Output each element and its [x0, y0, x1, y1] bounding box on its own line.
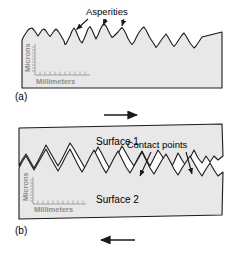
asperities-arrow-1 [77, 19, 89, 30]
panel-a-label: (a) [15, 91, 27, 102]
panel-a-x-axis-label: Millimeters [36, 77, 75, 86]
surface-asperities-figure: Microns Millimeters Asperities (a) [0, 0, 240, 255]
figure-root: Microns Millimeters Asperities (a) [0, 0, 240, 255]
asperities-label: Asperities [86, 6, 128, 17]
contact-points-label: Contact points [127, 139, 188, 150]
panel-b-y-axis-label: Microns [21, 172, 30, 201]
panel-b-label: (b) [15, 225, 27, 236]
panel-b: Microns Millimeters Surface 1 Surface 2 … [15, 124, 223, 236]
asperities-arrow-3 [122, 19, 124, 26]
panel-a: Microns Millimeters Asperities (a) [15, 6, 222, 102]
surface-2-label: Surface 2 [96, 194, 139, 205]
asperities-arrows [77, 19, 125, 30]
panel-b-x-axis-label: Millimeters [34, 205, 73, 214]
panel-a-y-axis-label: Microns [23, 43, 32, 72]
